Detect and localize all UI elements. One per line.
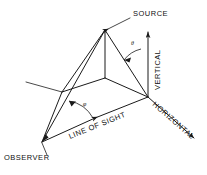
label-vertical: VERTICAL	[153, 49, 162, 90]
angle-lower-group	[69, 101, 93, 118]
label-horizontal: HORIZONTAL	[151, 100, 197, 141]
label-angle-upper: θ	[131, 40, 134, 46]
diagram-container: SOURCE OBSERVER VERTICAL HORIZONTAL LINE…	[0, 0, 207, 175]
angle-lower-arrowhead	[69, 101, 76, 107]
leader-source	[106, 18, 130, 30]
angle-upper-arc	[124, 49, 141, 60]
geometry-diagram: SOURCE OBSERVER VERTICAL HORIZONTAL LINE…	[0, 0, 207, 175]
angle-upper-group	[124, 49, 141, 63]
edge-source-to-left	[62, 30, 105, 92]
label-observer: OBSERVER	[4, 153, 50, 162]
ground-projection-ray	[42, 97, 148, 142]
reference-stub-left	[26, 82, 62, 92]
label-line-of-sight: LINE OF SIGHT	[67, 110, 127, 141]
label-angle-lower: φ	[83, 101, 87, 107]
label-source: SOURCE	[133, 9, 168, 18]
edge-source-to-right	[105, 30, 148, 97]
edge-left-to-base-center	[62, 78, 105, 92]
